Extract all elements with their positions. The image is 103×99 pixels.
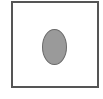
gray-ellipse <box>42 29 67 65</box>
